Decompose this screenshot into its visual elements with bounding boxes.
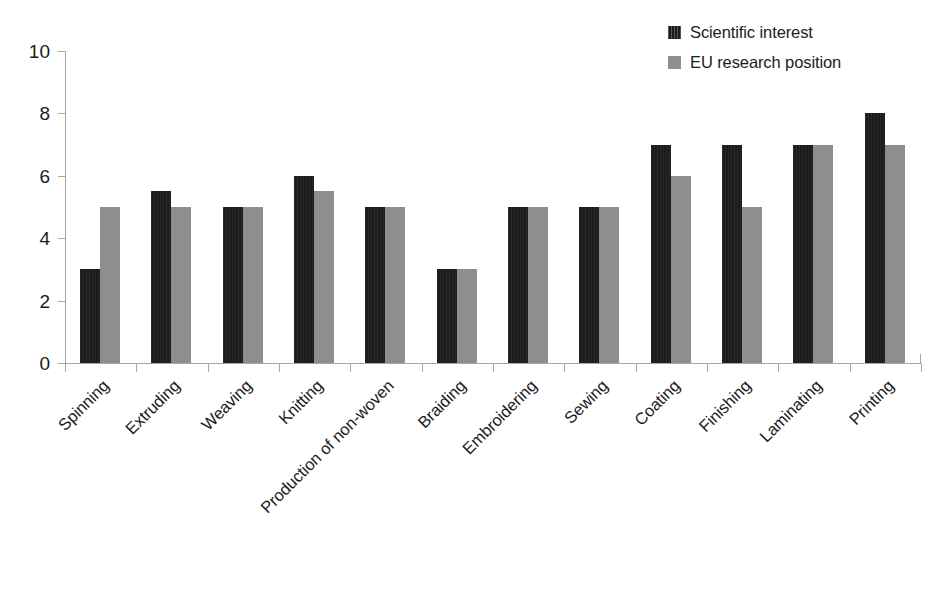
bar-eu-research-position-braiding bbox=[457, 269, 477, 363]
bar-eu-research-position-finishing bbox=[742, 207, 762, 363]
bar-scientific-interest-coating bbox=[651, 145, 671, 363]
y-axis-tick-label: 10 bbox=[29, 42, 50, 61]
y-axis-tick: 8 bbox=[58, 113, 65, 114]
x-axis-label-sewing: Sewing bbox=[561, 377, 611, 427]
bar-eu-research-position-knitting bbox=[314, 191, 334, 363]
legend-item-scientific-interest: Scientific interest bbox=[668, 22, 841, 42]
x-axis-tick bbox=[279, 363, 280, 372]
x-axis-label-extruding: Extruding bbox=[123, 377, 183, 437]
x-axis-tick bbox=[493, 363, 494, 372]
y-axis-tick-label: 8 bbox=[39, 104, 50, 123]
bar-scientific-interest-extruding bbox=[151, 191, 171, 363]
bar-scientific-interest-printing bbox=[865, 113, 885, 363]
bar-scientific-interest-knitting bbox=[294, 176, 314, 363]
bar-scientific-interest-laminating bbox=[793, 145, 813, 363]
x-axis-label-coating: Coating bbox=[631, 377, 682, 428]
y-axis-tick-label: 6 bbox=[39, 166, 50, 185]
x-axis-label-spinning: Spinning bbox=[55, 377, 112, 434]
x-axis-tick bbox=[136, 363, 137, 372]
x-axis-label-knitting: Knitting bbox=[276, 377, 326, 427]
x-axis-tick bbox=[778, 363, 779, 372]
x-axis-label-finishing: Finishing bbox=[696, 377, 754, 435]
y-axis-tick: 0 bbox=[58, 363, 65, 364]
bar-eu-research-position-laminating bbox=[813, 145, 833, 363]
x-axis-label-printing: Printing bbox=[846, 377, 897, 428]
x-axis-tick bbox=[350, 363, 351, 372]
x-axis-label-braiding: Braiding bbox=[414, 377, 468, 431]
bar-eu-research-position-production-of-non-woven bbox=[385, 207, 405, 363]
bar-scientific-interest-weaving bbox=[223, 207, 243, 363]
bar-eu-research-position-embroidering bbox=[528, 207, 548, 363]
bar-chart: Scientific interest EU research position… bbox=[0, 0, 950, 592]
bar-eu-research-position-spinning bbox=[100, 207, 120, 363]
bar-eu-research-position-printing bbox=[885, 145, 905, 363]
bar-eu-research-position-extruding bbox=[171, 207, 191, 363]
bar-scientific-interest-sewing bbox=[579, 207, 599, 363]
y-axis-tick: 4 bbox=[58, 238, 65, 239]
y-axis-tick: 6 bbox=[58, 176, 65, 177]
bar-scientific-interest-braiding bbox=[437, 269, 457, 363]
y-axis-tick: 10 bbox=[58, 51, 65, 52]
bar-scientific-interest-finishing bbox=[722, 145, 742, 363]
x-axis-tick bbox=[636, 363, 637, 372]
x-axis-tick bbox=[208, 363, 209, 372]
legend-label-scientific-interest: Scientific interest bbox=[690, 24, 813, 41]
x-axis-label-laminating: Laminating bbox=[757, 377, 825, 445]
y-axis-tick-label: 0 bbox=[39, 354, 50, 373]
legend-swatch-dark-icon bbox=[668, 26, 681, 39]
x-axis-label-production-of-non-woven: Production of non-woven bbox=[258, 377, 397, 516]
y-axis-tick-label: 2 bbox=[39, 291, 50, 310]
bar-scientific-interest-spinning bbox=[80, 269, 100, 363]
bar-eu-research-position-weaving bbox=[243, 207, 263, 363]
x-axis-tick bbox=[564, 363, 565, 372]
x-axis-tick bbox=[850, 363, 851, 372]
x-axis-tick bbox=[65, 363, 66, 372]
y-axis-tick: 2 bbox=[58, 301, 65, 302]
x-axis-tick bbox=[707, 363, 708, 372]
x-axis-tick bbox=[921, 363, 922, 372]
bar-eu-research-position-sewing bbox=[599, 207, 619, 363]
bar-scientific-interest-production-of-non-woven bbox=[365, 207, 385, 363]
x-axis-label-embroidering: Embroidering bbox=[459, 377, 539, 457]
x-axis-label-weaving: Weaving bbox=[198, 377, 254, 433]
plot-area: 0246810 bbox=[65, 51, 921, 363]
x-axis-tick bbox=[422, 363, 423, 372]
bar-eu-research-position-coating bbox=[671, 176, 691, 363]
y-axis-line bbox=[65, 51, 66, 363]
bar-scientific-interest-embroidering bbox=[508, 207, 528, 363]
y-axis-tick-label: 4 bbox=[39, 229, 50, 248]
